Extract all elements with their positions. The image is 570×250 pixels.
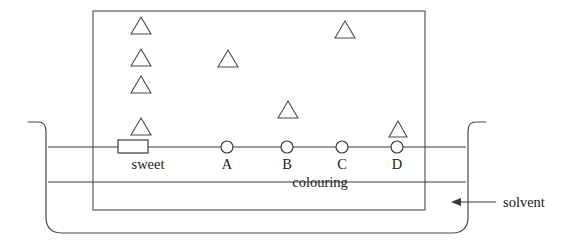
beaker-outline <box>28 122 486 233</box>
lane-label-a: A <box>222 156 233 172</box>
colouring-label: colouring <box>292 174 348 190</box>
diagram-canvas: sweet A B C D colouring solvent <box>0 0 570 250</box>
lane-label-c: C <box>337 156 347 172</box>
lane-label-d: D <box>392 156 402 172</box>
origin-spot-c <box>336 141 348 153</box>
chromatography-paper <box>93 11 425 210</box>
solvent-callout-arrowhead <box>451 198 461 206</box>
separated-spot-d-1 <box>389 121 407 137</box>
separated-spot-c-1 <box>335 21 355 38</box>
separated-spot-sweet-1 <box>131 17 151 34</box>
solvent-label: solvent <box>503 194 545 210</box>
separated-spot-sweet-2 <box>131 49 151 66</box>
origin-spot-a <box>221 141 233 153</box>
separated-spot-sweet-4 <box>131 118 151 135</box>
separated-spot-b-1 <box>278 101 298 118</box>
origin-spot-b <box>281 141 293 153</box>
chromatography-diagram: sweet A B C D colouring solvent <box>0 0 570 250</box>
separated-spot-a-1 <box>218 50 238 67</box>
origin-spot-d <box>391 141 403 153</box>
lane-label-b: B <box>282 156 292 172</box>
separated-spot-sweet-3 <box>131 76 151 93</box>
lane-label-sweet: sweet <box>131 156 164 172</box>
origin-spot-sweet <box>118 140 148 153</box>
